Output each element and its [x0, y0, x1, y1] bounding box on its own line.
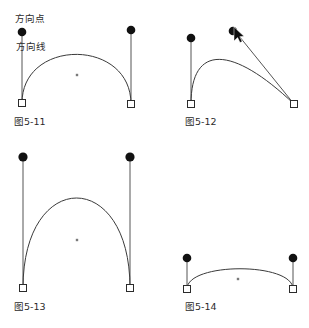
caption-5-13: 图5-13	[14, 301, 46, 312]
direction-point-left[interactable]	[18, 152, 27, 161]
bezier-curve[interactable]	[22, 54, 131, 104]
center-point	[237, 278, 239, 280]
direction-point-left[interactable]	[18, 28, 27, 37]
anchor-point-left[interactable]	[19, 100, 26, 107]
bezier-curve[interactable]	[191, 59, 294, 104]
anchor-point-right[interactable]	[128, 101, 135, 108]
anchor-point-right[interactable]	[127, 285, 134, 292]
anchor-point-left[interactable]	[20, 285, 27, 292]
figure-canvas: 方向点 方向线 图5-11 图5-12	[0, 0, 309, 328]
direction-point-right[interactable]	[125, 152, 134, 161]
direction-point-right[interactable]	[289, 254, 298, 263]
caption-5-12: 图5-12	[185, 116, 217, 127]
panel-5-13: 图5-13	[14, 152, 135, 312]
direction-point-left[interactable]	[187, 34, 196, 43]
direction-point-right[interactable]	[127, 26, 136, 35]
anchor-point-left[interactable]	[184, 286, 191, 293]
panel-5-12: 图5-12	[185, 27, 298, 127]
anchor-point-right[interactable]	[291, 101, 298, 108]
bezier-curve[interactable]	[23, 198, 130, 288]
direction-point-annotation: 方向点	[15, 13, 45, 24]
caption-5-14: 图5-14	[185, 301, 217, 312]
panel-5-11: 方向点 方向线 图5-11	[14, 13, 135, 127]
center-point	[76, 239, 78, 241]
direction-point-left[interactable]	[183, 254, 192, 263]
figure-root: 方向点 方向线 图5-11 图5-12	[0, 0, 309, 328]
center-point	[76, 74, 78, 76]
caption-5-11: 图5-11	[14, 116, 46, 127]
panel-5-14: 图5-14	[183, 254, 298, 312]
direction-line-right[interactable]	[235, 31, 294, 104]
bezier-curve[interactable]	[187, 269, 293, 289]
direction-line-annotation: 方向线	[16, 41, 46, 52]
anchor-point-right[interactable]	[290, 286, 297, 293]
anchor-point-left[interactable]	[188, 101, 195, 108]
